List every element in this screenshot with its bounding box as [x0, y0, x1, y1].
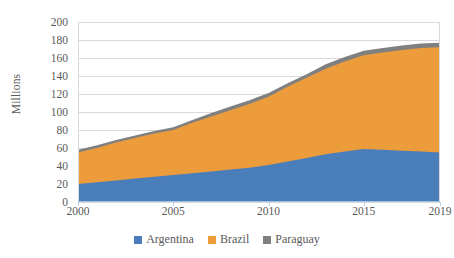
gridline: [78, 202, 440, 203]
chart-legend: ArgentinaBrazilParaguay: [0, 232, 454, 247]
legend-label: Argentina: [146, 232, 194, 247]
legend-swatch-icon: [263, 236, 271, 244]
y-tick-label: 80: [57, 124, 69, 136]
legend-swatch-icon: [208, 236, 216, 244]
x-axis-tick-labels: 20002005201020152019: [0, 205, 454, 225]
legend-item-brazil[interactable]: Brazil: [208, 232, 249, 247]
y-tick-label: 20: [57, 178, 69, 190]
y-tick-label: 140: [51, 70, 68, 82]
x-tick-label: 2019: [429, 205, 452, 217]
series-layer: [78, 22, 440, 202]
legend-label: Brazil: [220, 232, 249, 247]
plot-right-border: [439, 22, 440, 202]
plot-area: [78, 22, 440, 202]
y-tick-label: 120: [51, 88, 68, 100]
x-tick-label: 2015: [352, 205, 375, 217]
y-tick-label: 100: [51, 106, 68, 118]
legend-item-argentina[interactable]: Argentina: [134, 232, 194, 247]
legend-item-paraguay[interactable]: Paraguay: [263, 232, 320, 247]
y-axis-line: [78, 22, 79, 202]
x-tick-label: 2010: [257, 205, 280, 217]
y-tick-label: 160: [51, 52, 68, 64]
x-tick-label: 2005: [162, 205, 185, 217]
y-tick-label: 180: [51, 34, 68, 46]
y-tick-label: 200: [51, 16, 68, 28]
y-tick-label: 60: [57, 142, 69, 154]
x-tick-label: 2000: [67, 205, 90, 217]
x-axis-line: [78, 201, 440, 202]
legend-label: Paraguay: [275, 232, 320, 247]
y-tick-label: 40: [57, 160, 69, 172]
legend-swatch-icon: [134, 236, 142, 244]
stacked-area-chart: Millions 020406080100120140160180200 200…: [0, 0, 454, 258]
